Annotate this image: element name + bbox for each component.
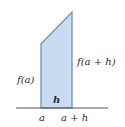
label-a-plus-h: a + h bbox=[61, 113, 88, 123]
trapezoid-diagram: f(a) f(a + h) h a a + h bbox=[0, 0, 125, 127]
label-h: h bbox=[53, 95, 60, 105]
label-f-a-plus-h: f(a + h) bbox=[77, 57, 116, 67]
label-a: a bbox=[39, 113, 45, 123]
label-f-a: f(a) bbox=[17, 75, 34, 85]
